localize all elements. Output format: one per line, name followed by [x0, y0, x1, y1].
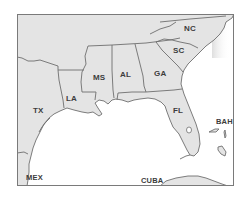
label-nc: NC	[184, 24, 196, 33]
southeast-us-map: NC SC GA AL MS LA TX FL BAH MEX CUBA	[0, 0, 246, 201]
label-mex: MEX	[26, 173, 43, 182]
label-ms: MS	[93, 73, 106, 82]
map-container: NC SC GA AL MS LA TX FL BAH MEX CUBA	[0, 0, 246, 201]
label-cuba: CUBA	[141, 176, 164, 185]
label-la: LA	[66, 94, 77, 103]
label-fl: FL	[173, 106, 183, 115]
lake-okeechobee	[187, 127, 192, 133]
label-bah: BAH	[216, 117, 233, 126]
label-sc: SC	[173, 46, 185, 55]
label-ga: GA	[154, 69, 166, 78]
label-tx: TX	[33, 106, 44, 115]
label-al: AL	[120, 70, 131, 79]
